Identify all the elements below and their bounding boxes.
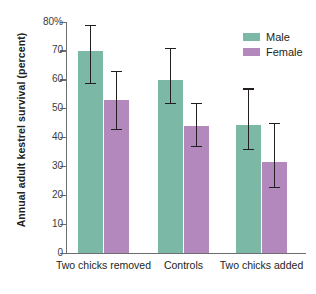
y-tick-label: 60: [23, 73, 63, 84]
y-tick-label: 20: [23, 189, 63, 200]
y-tick-label: 10: [23, 218, 63, 229]
error-bar-cap: [269, 187, 280, 188]
error-bar: [196, 103, 197, 146]
y-tick-label: 0: [23, 247, 63, 258]
legend: MaleFemale: [243, 31, 303, 61]
error-bar-cap: [165, 48, 176, 49]
error-bar-cap: [243, 149, 254, 150]
error-bar-cap: [111, 71, 122, 72]
error-bar: [248, 88, 249, 149]
error-bar: [116, 71, 117, 129]
legend-swatch-male: [243, 33, 260, 41]
error-bar: [170, 48, 171, 103]
error-bar-cap: [191, 103, 202, 104]
x-axis-label: Two chicks added: [214, 259, 310, 272]
y-tick-label: 40: [23, 131, 63, 142]
error-bar-cap: [111, 129, 122, 130]
error-bar: [274, 123, 275, 187]
error-bar-cap: [165, 103, 176, 104]
y-tick-label: 70: [23, 44, 63, 55]
x-axis-line: [66, 253, 306, 254]
error-bar-cap: [85, 25, 96, 26]
error-bar-cap: [85, 83, 96, 84]
y-tick-label: 80%: [23, 16, 63, 27]
error-bar-cap: [191, 146, 202, 147]
y-tick-label: 50: [23, 102, 63, 113]
bar-male: [158, 80, 183, 253]
error-bar-cap: [269, 123, 280, 124]
y-tick-label: 30: [23, 160, 63, 171]
legend-item: Female: [243, 46, 303, 58]
legend-swatch-female: [243, 48, 260, 56]
legend-item: Male: [243, 31, 303, 43]
legend-label: Male: [266, 31, 290, 43]
error-bar-cap: [243, 88, 254, 89]
legend-label: Female: [266, 46, 303, 58]
error-bar: [90, 25, 91, 83]
bar-chart: Annual adult kestrel survival (percent) …: [0, 0, 316, 294]
